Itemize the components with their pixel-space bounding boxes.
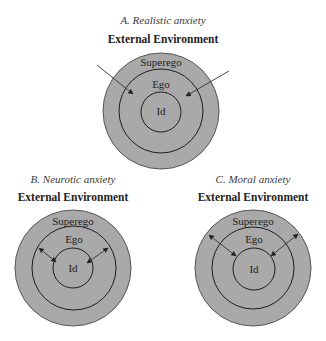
ego-label-a: Ego [152,78,170,90]
panel-title-a: A. Realistic anxiety [119,14,205,26]
id-label-a: Id [156,105,166,117]
panel-moral-anxiety: C. Moral anxiety External Environment Su… [195,173,311,326]
panel-title-c: C. Moral anxiety [216,173,291,185]
id-label-c: Id [249,263,259,275]
ego-label-b: Ego [65,233,83,245]
external-environment-label-c: External Environment [198,191,309,203]
id-label-b: Id [68,262,78,274]
superego-label-a: Superego [140,56,182,68]
superego-label-b: Superego [52,215,94,227]
panel-title-b: B. Neurotic anxiety [31,173,116,185]
panel-neurotic-anxiety: B. Neurotic anxiety External Environment… [15,173,131,326]
superego-label-c: Superego [232,215,274,227]
external-environment-label-a: External Environment [108,33,219,45]
anxiety-diagram: A. Realistic anxiety External Environmen… [0,0,326,341]
panel-realistic-anxiety: A. Realistic anxiety External Environmen… [97,14,229,169]
external-environment-label-b: External Environment [18,191,129,203]
ego-label-c: Ego [245,233,263,245]
